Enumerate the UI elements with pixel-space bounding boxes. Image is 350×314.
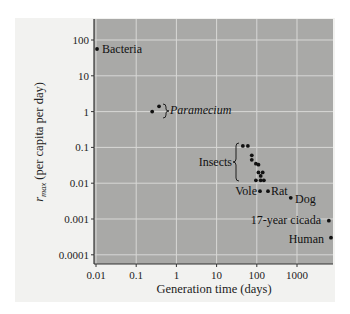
x-tick-label: 0.1: [129, 269, 143, 281]
data-point: [261, 171, 265, 175]
data-point: [262, 178, 266, 182]
data-point: [95, 47, 99, 51]
point-label: Bacteria: [102, 42, 143, 56]
y-tick-label: 10: [78, 70, 90, 82]
data-point: [257, 163, 261, 167]
x-tick-label: 1: [174, 269, 180, 281]
y-axis-title-sub: max: [38, 183, 48, 197]
data-point: [157, 104, 161, 108]
y-tick-label: 1: [84, 106, 90, 118]
data-point: [329, 236, 333, 240]
data-point: [241, 144, 245, 148]
point-label: Dog: [295, 192, 316, 206]
y-axis-title-rest: (per capita per day): [32, 82, 46, 183]
data-point: [257, 171, 261, 175]
scatter-chart: 0.010.111010010001001010.10.010.0010.000…: [0, 0, 350, 314]
data-point: [250, 158, 254, 162]
y-axis-title: rmax (per capita per day): [32, 82, 48, 202]
data-point: [259, 174, 263, 178]
y-tick-label: 0.0001: [59, 249, 89, 261]
y-tick-label: 0.1: [75, 141, 89, 153]
data-point: [327, 219, 331, 223]
y-tick-label: 100: [73, 34, 90, 46]
data-point: [266, 189, 270, 193]
point-label: Paramecium: [169, 103, 232, 117]
point-label: Human: [289, 232, 324, 246]
x-axis-title: Generation time (days): [156, 282, 271, 296]
x-tick-label: 100: [249, 269, 266, 281]
y-tick-label: 0.001: [64, 213, 89, 225]
y-tick-label: 0.01: [70, 177, 89, 189]
data-point: [258, 189, 262, 193]
point-label: Vole: [235, 184, 257, 198]
x-tick-label: 10: [211, 269, 223, 281]
bracket: [163, 104, 169, 118]
point-label: Insects: [199, 155, 233, 169]
data-point: [289, 196, 293, 200]
data-point: [254, 178, 258, 182]
point-label: Rat: [271, 184, 288, 198]
data-point: [250, 153, 254, 157]
x-tick-label: 1000: [286, 269, 309, 281]
x-tick-label: 0.01: [86, 269, 105, 281]
data-point: [246, 144, 250, 148]
data-point: [150, 110, 154, 114]
point-labels: BacteriaParameciumInsectsVoleRatDog17-ye…: [102, 42, 324, 246]
bracket: [233, 143, 239, 181]
point-label: 17-year cicada: [251, 213, 322, 227]
